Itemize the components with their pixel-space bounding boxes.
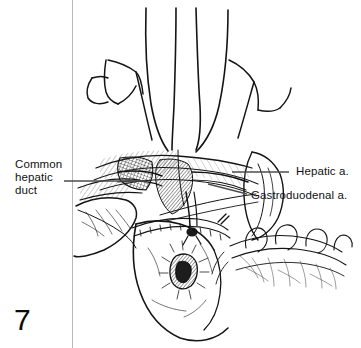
label-common-hepatic-duct: Common hepatic duct — [15, 158, 62, 198]
figure-container: Common hepatic duct Hepatic a. Gastroduo… — [0, 0, 361, 348]
figure-number: 7 — [14, 305, 31, 335]
label-hepatic-artery: Hepatic a. — [296, 165, 349, 178]
label-gastroduodenal-artery: Gastroduodenal a. — [251, 189, 347, 202]
